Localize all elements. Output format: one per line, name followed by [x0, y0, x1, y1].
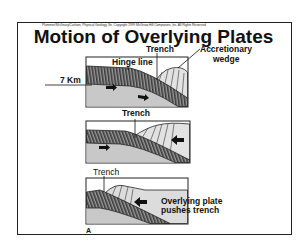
trench-label-2: Trench [122, 109, 150, 118]
accretionary-label: Accretionary [200, 45, 252, 54]
push-label-line2: pushes trench [161, 206, 219, 215]
panel-2 [86, 119, 190, 163]
figure-label: A [86, 226, 91, 235]
depth-label: 7 Km [60, 76, 81, 85]
subduction-diagrams [0, 0, 307, 250]
wedge-label: wedge [213, 55, 239, 64]
trench-label-3: Trench [93, 168, 119, 177]
trench-label-1: Trench [146, 45, 174, 54]
hinge-line-label: Hinge line [112, 58, 153, 67]
